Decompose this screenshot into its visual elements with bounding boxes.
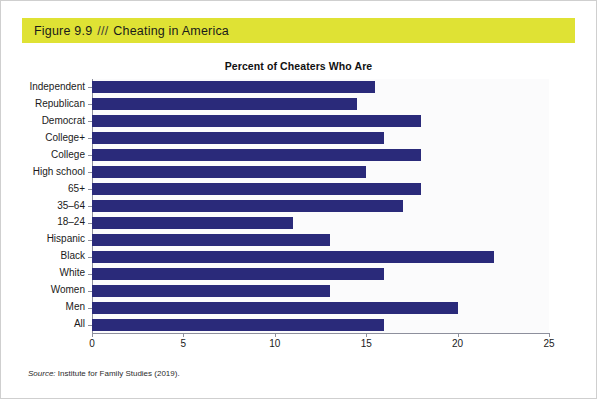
figure-number: Figure 9.9	[34, 24, 92, 38]
bar	[92, 268, 384, 280]
x-axis-tick	[366, 333, 367, 337]
bar	[92, 132, 384, 144]
x-axis-tick	[458, 333, 459, 337]
bar	[92, 81, 375, 93]
bar-row: College	[92, 147, 549, 164]
bar	[92, 98, 357, 110]
bar-row: Republican	[92, 96, 549, 113]
category-label: Women	[51, 282, 92, 299]
category-label: Independent	[29, 79, 92, 96]
bar-row: Black	[92, 248, 549, 265]
x-axis-tick-label: 15	[361, 338, 372, 349]
x-axis-tick	[183, 333, 184, 337]
bar	[92, 302, 458, 314]
bar	[92, 234, 330, 246]
bar-row: 65+	[92, 181, 549, 198]
figure-caption-banner: Figure 9.9///Cheating in America	[22, 18, 575, 43]
bar	[92, 115, 421, 127]
figure-page: Figure 9.9///Cheating in America Percent…	[0, 0, 597, 399]
source-label: Source:	[28, 369, 56, 378]
bar-row: All	[92, 316, 549, 333]
plot-area: IndependentRepublicanDemocratCollege+Col…	[92, 79, 549, 333]
x-axis-line	[92, 333, 549, 334]
bar-row: College+	[92, 130, 549, 147]
source-note: Source: Institute for Family Studies (20…	[28, 369, 180, 378]
bar-row: 18–24	[92, 214, 549, 231]
caption-separator: ///	[92, 24, 113, 38]
category-label: 18–24	[57, 214, 92, 231]
category-label: 35–64	[57, 198, 92, 215]
figure-caption-text: Figure 9.9///Cheating in America	[22, 24, 229, 38]
category-label: College+	[45, 130, 92, 147]
figure-title: Cheating in America	[113, 24, 229, 38]
chart-title: Percent of Cheaters Who Are	[22, 60, 575, 72]
bar-row: 35–64	[92, 198, 549, 215]
bar	[92, 183, 421, 195]
bar	[92, 217, 293, 229]
bar-row: Women	[92, 282, 549, 299]
bar	[92, 285, 330, 297]
category-label: Hispanic	[47, 231, 92, 248]
bar-row: Independent	[92, 79, 549, 96]
bar-row: Hispanic	[92, 231, 549, 248]
source-text: Institute for Family Studies (2019).	[56, 369, 180, 378]
category-label: College	[51, 147, 92, 164]
bar	[92, 166, 366, 178]
bar-row: White	[92, 265, 549, 282]
x-axis-tick-label: 25	[543, 338, 554, 349]
bar	[92, 200, 403, 212]
x-axis-tick	[92, 333, 93, 337]
bar-row: Men	[92, 299, 549, 316]
bar	[92, 319, 384, 331]
x-axis-tick-label: 0	[89, 338, 95, 349]
x-axis-tick-label: 20	[452, 338, 463, 349]
x-axis-tick	[275, 333, 276, 337]
x-axis-tick-label: 5	[181, 338, 187, 349]
x-axis-tick-label: 10	[269, 338, 280, 349]
x-axis-tick	[549, 333, 550, 337]
chart-container: Percent of Cheaters Who Are IndependentR…	[22, 55, 575, 355]
bar	[92, 251, 494, 263]
bar-row: Democrat	[92, 113, 549, 130]
category-label: High school	[33, 164, 92, 181]
category-label: Democrat	[42, 113, 92, 130]
bar	[92, 149, 421, 161]
bar-row: High school	[92, 164, 549, 181]
category-label: Republican	[35, 96, 92, 113]
